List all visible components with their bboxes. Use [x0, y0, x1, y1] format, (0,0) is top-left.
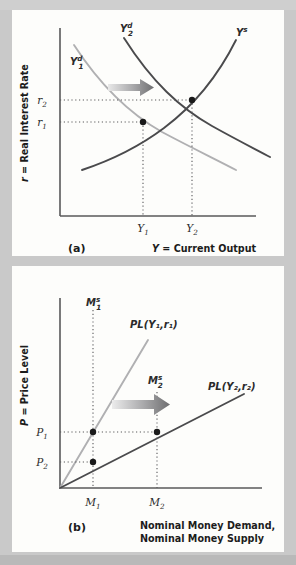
panel-a-xtick-y1: Y1 — [137, 222, 149, 237]
panel-b-xtick-m1: M1 — [84, 496, 100, 511]
panel-a-equilibrium-1 — [140, 119, 146, 125]
label-curve-pl-y1r1: PL(Y₁,r₁) — [130, 319, 178, 330]
panel-a-ytick-r1: r1 — [37, 116, 47, 131]
label-curve-y1d: Yd1 — [70, 54, 83, 71]
label-curve-pl-y2r2: PL(Y₂,r₂) — [208, 381, 256, 392]
label-curve-ys: Ys — [236, 25, 248, 38]
panel-b-card: Ms1 Ms2 PL(Y₁,r₁) PL(Y₂,r₂) P1 P2 M1 M2 — [12, 266, 284, 552]
panel-b-y-axis-title: P = Price Level — [19, 345, 30, 426]
panel-b-xtick-m2: M2 — [148, 496, 165, 511]
demand-shift-arrow — [108, 79, 154, 96]
panel-b-caption-line2: Nominal Money Supply — [140, 533, 265, 544]
panel-a-ytick-r2: r2 — [37, 94, 47, 109]
panel-b-point-a — [90, 429, 96, 435]
label-m2s: Ms2 — [148, 373, 163, 390]
panel-a-tag: (a) — [68, 242, 85, 255]
panel-a-card: Yd1 Yd2 Ys r2 r1 Y1 Y2 — [12, 10, 284, 256]
label-m1s: Ms1 — [86, 295, 101, 312]
panel-a-y-axis-title: r = Real Interest Rate — [19, 64, 30, 182]
panel-b-ytick-p1: P1 — [35, 426, 48, 441]
curve-y1d — [74, 45, 236, 170]
panel-a-x-caption: Y = Current Output — [152, 243, 257, 254]
panel-a-equilibrium-2 — [189, 97, 195, 103]
curve-ys — [82, 40, 236, 170]
panel-b-ytick-p2: P2 — [35, 456, 48, 471]
panel-a-xtick-y2: Y2 — [186, 222, 198, 237]
panel-b-chart: Ms1 Ms2 PL(Y₁,r₁) PL(Y₂,r₂) P1 P2 M1 M2 — [12, 266, 284, 552]
panel-b-point-b — [90, 459, 96, 465]
panel-b-caption-line1: Nominal Money Demand, — [140, 520, 275, 531]
figure-page: Yd1 Yd2 Ys r2 r1 Y1 Y2 — [0, 0, 296, 565]
page-top-strip — [0, 0, 296, 10]
panel-b-tag: (b) — [68, 521, 86, 534]
label-curve-y2d: Yd2 — [120, 21, 133, 38]
page-bottom-strip — [0, 555, 296, 565]
panel-b-point-c — [154, 429, 160, 435]
money-shift-arrow — [112, 394, 170, 415]
panel-a-chart: Yd1 Yd2 Ys r2 r1 Y1 Y2 — [12, 10, 284, 256]
